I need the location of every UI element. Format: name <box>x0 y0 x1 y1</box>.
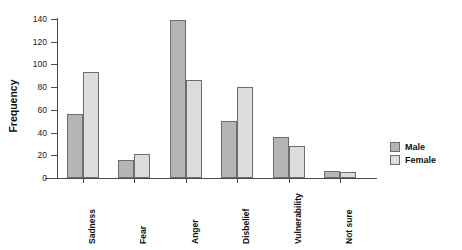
x-tick-sadness <box>83 178 84 183</box>
bar-not-sure-male <box>324 171 340 178</box>
x-tick-vulnerability <box>289 178 290 183</box>
bar-vulnerability-male <box>273 137 289 178</box>
plot-area <box>57 19 366 178</box>
y-axis-title: Frequency <box>6 58 20 154</box>
x-tick-fear <box>134 178 135 183</box>
x-tick-not-sure <box>340 178 341 183</box>
x-axis-label-anger: Anger <box>190 219 200 244</box>
bar-sadness-female <box>83 72 99 178</box>
bar-fear-female <box>134 154 150 178</box>
y-tick-label-60: 60 <box>23 105 47 115</box>
legend-label-male: Male <box>405 142 425 152</box>
y-tick-label-140: 140 <box>23 14 47 24</box>
bar-sadness-male <box>67 114 83 178</box>
x-axis-line <box>45 178 377 179</box>
bar-anger-male <box>170 20 186 178</box>
y-axis-title-label: Frequency <box>7 79 19 132</box>
y-tick-label-80: 80 <box>23 82 47 92</box>
bar-chart: Frequency 140 120 100 80 60 40 20 0 Sadn… <box>0 0 462 250</box>
legend-item-male[interactable]: Male <box>390 142 436 152</box>
bar-vulnerability-female <box>289 146 305 178</box>
bar-disbelief-male <box>221 121 237 178</box>
legend-label-female: Female <box>405 155 436 165</box>
x-tick-anger <box>186 178 187 183</box>
x-tick-disbelief <box>237 178 238 183</box>
legend-swatch-male-icon <box>390 142 400 152</box>
legend-swatch-female-icon <box>390 155 400 165</box>
bar-not-sure-female <box>340 172 356 178</box>
bar-disbelief-female <box>237 87 253 178</box>
y-tick-label-120: 120 <box>23 37 47 47</box>
y-tick-label-40: 40 <box>23 128 47 138</box>
x-axis-label-vulnerability: Vulnerability <box>293 193 303 244</box>
y-tick-0 <box>51 178 57 179</box>
y-tick-label-100: 100 <box>23 59 47 69</box>
x-axis-label-not-sure: Not sure <box>344 210 354 244</box>
bar-anger-female <box>186 80 202 178</box>
x-axis-label-disbelief: Disbelief <box>241 209 251 244</box>
bar-fear-male <box>118 160 134 178</box>
legend: Male Female <box>390 142 436 168</box>
y-tick-label-20: 20 <box>23 150 47 160</box>
y-tick-label-0: 0 <box>23 173 47 183</box>
x-axis-label-fear: Fear <box>138 226 148 244</box>
x-axis-label-sadness: Sadness <box>87 209 97 244</box>
legend-item-female[interactable]: Female <box>390 155 436 165</box>
